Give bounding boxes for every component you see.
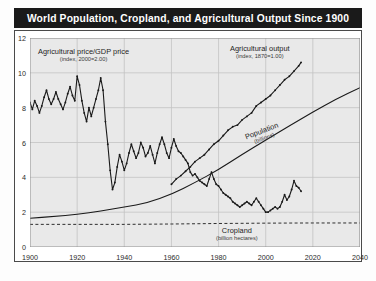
data-point-marker: [194, 161, 196, 163]
data-point-marker: [175, 145, 177, 147]
data-point-marker: [34, 100, 36, 102]
data-point-marker: [64, 101, 66, 103]
data-point-marker: [262, 208, 264, 210]
data-point-marker: [272, 208, 274, 210]
data-point-marker: [293, 70, 295, 72]
data-point-marker: [180, 152, 182, 154]
data-point-marker: [213, 178, 215, 180]
data-point-marker: [288, 196, 290, 198]
data-point-marker: [57, 98, 59, 100]
data-point-marker: [152, 154, 154, 156]
data-point-marker: [48, 98, 50, 100]
data-point-marker: [199, 157, 201, 159]
data-point-marker: [93, 107, 95, 109]
data-point-marker: [239, 206, 241, 208]
data-point-marker: [154, 162, 156, 164]
y-axis-tick-label: 6: [22, 138, 30, 147]
data-point-marker: [50, 103, 52, 105]
data-point-marker: [255, 105, 257, 107]
x-axis-tick-label: 1940: [116, 247, 132, 262]
data-point-marker: [137, 152, 139, 154]
data-point-marker: [76, 75, 78, 77]
y-axis-tick-label: 10: [18, 68, 30, 77]
data-point-marker: [145, 155, 147, 157]
data-point-marker: [286, 199, 288, 201]
data-point-marker: [192, 175, 194, 177]
chart-figure: World Population, Cropland, and Agricult…: [0, 0, 376, 281]
data-point-marker: [215, 183, 217, 185]
data-point-marker: [248, 203, 250, 205]
data-point-marker: [112, 189, 114, 191]
data-point-marker: [227, 129, 229, 131]
data-point-marker: [156, 152, 158, 154]
data-point-marker: [149, 145, 151, 147]
data-point-marker: [189, 171, 191, 173]
plot-area: 024681012 190019201940196019802000202020…: [30, 38, 360, 247]
data-point-marker: [218, 185, 220, 187]
data-point-marker: [55, 91, 57, 93]
data-point-marker: [81, 100, 83, 102]
data-point-marker: [79, 84, 81, 86]
data-point-marker: [180, 175, 182, 177]
data-point-marker: [74, 100, 76, 102]
data-point-marker: [100, 77, 102, 79]
data-point-marker: [260, 101, 262, 103]
x-axis-tick-label: 1920: [69, 247, 85, 262]
data-point-marker: [196, 176, 198, 178]
data-point-marker: [185, 159, 187, 161]
data-point-marker: [62, 108, 64, 110]
data-point-marker: [83, 112, 85, 114]
data-point-marker: [277, 208, 279, 210]
data-point-marker: [116, 166, 118, 168]
data-point-marker: [104, 121, 106, 123]
data-point-marker: [279, 206, 281, 208]
data-point-marker: [298, 65, 300, 67]
data-point-marker: [60, 103, 62, 105]
data-point-marker: [135, 157, 137, 159]
data-point-marker: [269, 209, 271, 211]
data-point-marker: [97, 89, 99, 91]
data-point-marker: [175, 178, 177, 180]
data-point-marker: [140, 142, 142, 144]
data-point-marker: [225, 194, 227, 196]
data-point-marker: [161, 136, 163, 138]
chart-title-bar: World Population, Cropland, and Agricult…: [14, 8, 362, 28]
data-point-marker: [246, 201, 248, 203]
data-point-marker: [194, 173, 196, 175]
data-point-marker: [168, 157, 170, 159]
data-point-marker: [189, 166, 191, 168]
data-point-marker: [147, 152, 149, 154]
data-point-marker: [206, 185, 208, 187]
data-point-marker: [201, 182, 203, 184]
data-point-marker: [36, 105, 38, 107]
data-point-marker: [170, 147, 172, 149]
data-point-marker: [95, 98, 97, 100]
data-point-marker: [274, 206, 276, 208]
x-axis-tick-label: 1960: [163, 247, 179, 262]
x-axis-tick-label: 2040: [352, 247, 368, 262]
x-axis-tick-label: 1980: [211, 247, 227, 262]
page-title: World Population, Cropland, and Agricult…: [27, 13, 349, 24]
data-point-marker: [269, 95, 271, 97]
data-point-marker: [251, 204, 253, 206]
data-point-marker: [255, 197, 257, 199]
data-point-marker: [236, 124, 238, 126]
data-point-marker: [298, 187, 300, 189]
data-point-marker: [232, 201, 234, 203]
data-point-marker: [258, 201, 260, 203]
data-point-marker: [38, 112, 40, 114]
data-point-marker: [300, 190, 302, 192]
data-point-marker: [222, 135, 224, 137]
data-point-marker: [41, 105, 43, 107]
data-point-marker: [279, 84, 281, 86]
data-point-marker: [69, 86, 71, 88]
data-point-marker: [274, 89, 276, 91]
data-point-marker: [170, 183, 172, 185]
data-point-marker: [121, 161, 123, 163]
data-point-marker: [218, 140, 220, 142]
y-axis-tick-label: 8: [22, 103, 30, 112]
data-point-marker: [291, 189, 293, 191]
data-point-marker: [288, 75, 290, 77]
y-axis-tick-label: 4: [22, 173, 30, 182]
data-point-marker: [67, 93, 69, 95]
